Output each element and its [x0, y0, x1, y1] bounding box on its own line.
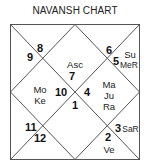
house-sign-left-top: 9: [27, 52, 33, 63]
house-sign-bottom-right: 2: [105, 132, 111, 143]
planet-mer: MeR: [119, 60, 139, 70]
planet-sar: SaR: [121, 124, 140, 134]
planet-ve: Ve: [99, 145, 119, 155]
planet-ju: Ju: [99, 91, 119, 101]
house-sign-right-center: 4: [84, 87, 90, 98]
planet-ke: Ke: [30, 96, 50, 106]
planet-su: Su: [121, 50, 139, 60]
house-sign-top-left: 8: [37, 43, 43, 54]
house-sign-top-right: 6: [106, 45, 112, 56]
house-sign-left-center: 10: [55, 87, 67, 98]
house-sign-bottom-left: 12: [34, 133, 46, 144]
planet-ra: Ra: [99, 102, 119, 112]
house-sign-bottom-center: 1: [72, 100, 78, 111]
planet-mo: Mo: [30, 85, 50, 95]
chart-grid: [0, 0, 150, 168]
planet-ma: Ma: [99, 80, 119, 90]
planet-asc: Asc: [62, 60, 88, 70]
house-sign-top-center: 7: [69, 71, 75, 82]
